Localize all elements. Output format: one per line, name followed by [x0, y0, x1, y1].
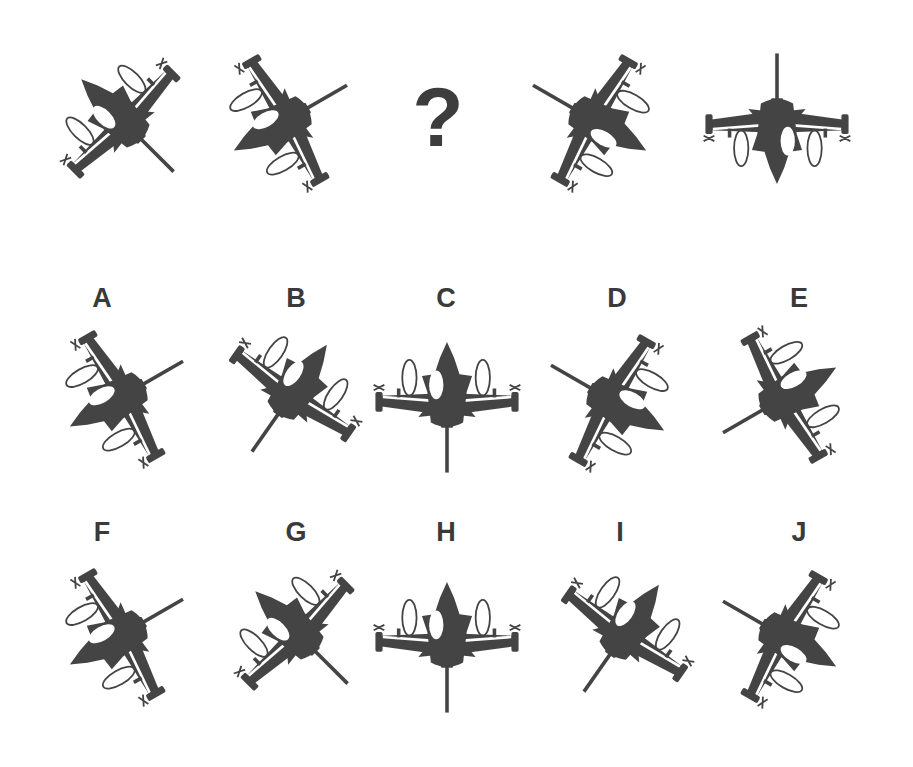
option-e-jet[interactable] — [700, 312, 870, 482]
sequence-jet-1 — [38, 36, 208, 206]
option-a-jet[interactable] — [36, 312, 206, 482]
option-label-d: D — [587, 283, 647, 313]
option-label-f: F — [72, 517, 132, 547]
option-label-j: J — [769, 517, 829, 547]
option-label-h: H — [416, 517, 476, 547]
option-label-a: A — [72, 283, 132, 313]
option-j-jet[interactable] — [700, 552, 870, 722]
option-g-jet[interactable] — [212, 548, 382, 718]
option-i-jet[interactable] — [540, 548, 710, 718]
option-h-jet[interactable] — [362, 556, 532, 726]
option-label-e: E — [769, 283, 829, 313]
missing-item-question-mark: ? — [408, 72, 468, 162]
option-label-g: G — [266, 517, 326, 547]
sequence-jet-4 — [510, 36, 680, 206]
option-f-jet[interactable] — [36, 550, 206, 720]
option-b-jet[interactable] — [208, 308, 378, 478]
option-label-i: I — [590, 517, 650, 547]
sequence-jet-5 — [692, 40, 862, 210]
option-d-jet[interactable] — [528, 316, 698, 486]
option-c-jet[interactable] — [362, 316, 532, 486]
option-label-c: C — [416, 283, 476, 313]
sequence-jet-2 — [200, 36, 370, 206]
